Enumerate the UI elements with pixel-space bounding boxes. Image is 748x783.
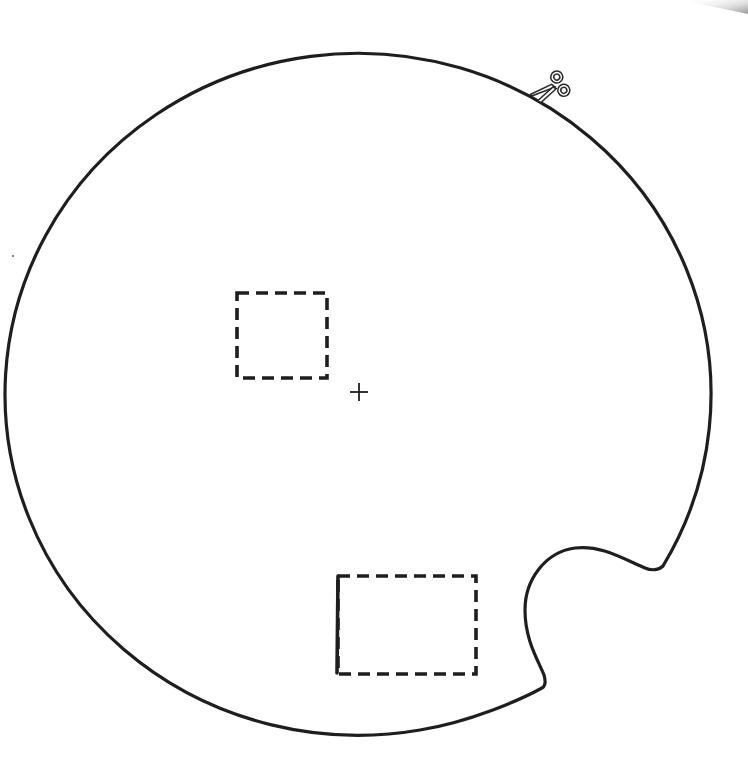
lower-rectangle-window — [338, 576, 476, 674]
scissors-icon — [527, 69, 572, 110]
lower-window-solid-edge — [337, 576, 338, 673]
outer-cut-outline — [5, 53, 711, 735]
center-crosshair-icon — [350, 383, 368, 401]
paper-speck — [12, 255, 14, 257]
upper-square-window — [237, 293, 327, 378]
template-canvas — [0, 0, 748, 783]
page-curl-shadow — [680, 0, 748, 14]
